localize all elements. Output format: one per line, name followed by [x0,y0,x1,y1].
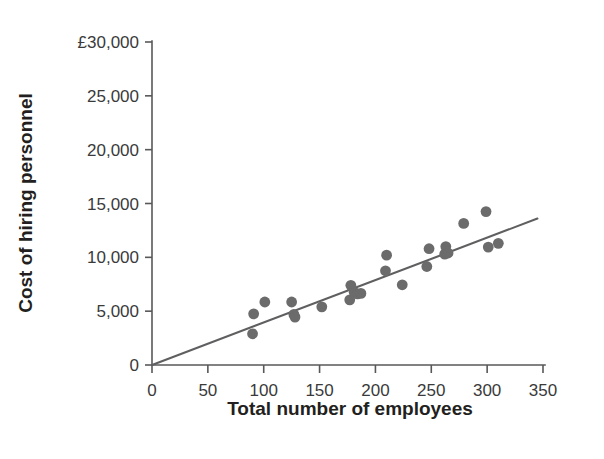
x-tick-label: 0 [147,381,156,400]
data-point [247,328,258,339]
trend-line [152,219,537,365]
y-tick-label: 25,000 [87,87,139,106]
data-point [424,243,435,254]
data-point [380,265,391,276]
data-point [493,238,504,249]
x-axis: 050100150200250300350 [147,365,557,400]
data-point [356,288,367,299]
x-axis-tick-marks [152,365,543,373]
data-point [286,297,297,308]
x-tick-label: 350 [529,381,557,400]
data-point [458,218,469,229]
y-axis-title: Cost of hiring personnel [15,93,36,313]
data-point [443,248,454,259]
x-tick-label: 50 [198,381,217,400]
x-axis-title: Total number of employees [227,398,473,419]
data-point [290,312,301,323]
data-point [381,250,392,261]
y-tick-label: 10,000 [87,248,139,267]
chart-canvas: 05,00010,00015,00020,00025,000£30,000 05… [0,0,604,459]
data-point-series [247,206,504,339]
y-tick-label: 20,000 [87,141,139,160]
y-axis-tick-labels: 05,00010,00015,00020,00025,000£30,000 [78,33,139,375]
y-axis-tick-marks [145,42,152,365]
data-point [316,301,327,312]
y-tick-label: 15,000 [87,195,139,214]
data-point [248,308,259,319]
y-tick-label: 0 [130,356,139,375]
scatter-chart-figure: 05,00010,00015,00020,00025,000£30,000 05… [0,0,604,459]
data-point [481,206,492,217]
data-point [259,297,270,308]
data-point [483,242,494,253]
data-point [397,279,408,290]
y-tick-label: 5,000 [96,302,139,321]
line-of-best-fit [152,219,537,365]
data-point [421,261,432,272]
y-axis: 05,00010,00015,00020,00025,000£30,000 [78,33,152,375]
x-tick-label: 300 [473,381,501,400]
y-tick-label: £30,000 [78,33,139,52]
